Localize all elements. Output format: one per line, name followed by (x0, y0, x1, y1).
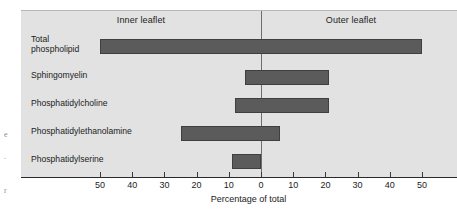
data-bar (181, 126, 281, 141)
x-axis-tick (358, 172, 359, 177)
x-axis-tick (132, 172, 133, 177)
x-axis-tick-label: 40 (120, 180, 144, 190)
x-axis-tick-label: 20 (185, 180, 209, 190)
x-axis-tick (325, 172, 326, 177)
margin-artifact-2: . (4, 152, 6, 161)
x-axis-tick (164, 172, 165, 177)
chart-row: Phosphatidylethanolamine (21, 120, 457, 148)
x-axis-line (21, 177, 457, 178)
category-label-line: Phosphatidylserine (31, 154, 104, 164)
category-label: Phosphatidylethanolamine (31, 126, 132, 136)
x-axis-title: Percentage of total (0, 194, 457, 204)
category-label: Totalphospholipid (31, 34, 79, 54)
x-axis-tick-label: 30 (346, 180, 370, 190)
data-bar (100, 39, 422, 54)
phospholipid-distribution-chart: e . r Inner leaflet Outer leaflet Totalp… (0, 0, 457, 224)
data-bar (232, 154, 261, 169)
category-label-line: Sphingomyelin (31, 70, 87, 80)
chart-row: Phosphatidylserine (21, 148, 457, 176)
chart-row: Totalphospholipid (21, 33, 457, 61)
category-label: Phosphatidylserine (31, 154, 104, 164)
x-axis-tick-label: 30 (152, 180, 176, 190)
data-bar (245, 70, 329, 85)
x-axis-tick-label: 10 (281, 180, 305, 190)
category-label-line: Total (31, 34, 79, 44)
x-axis-tick-label: 50 (410, 180, 434, 190)
x-axis-tick (390, 172, 391, 177)
plot-area: Inner leaflet Outer leaflet Totalphospho… (21, 10, 457, 178)
category-label-line: phospholipid (31, 44, 79, 54)
x-axis-tick (293, 172, 294, 177)
category-label-line: Phosphatidylethanolamine (31, 126, 132, 136)
x-axis-tick-label: 50 (88, 180, 112, 190)
x-axis-tick (100, 172, 101, 177)
x-axis-tick (197, 172, 198, 177)
category-label-line: Phosphatidylcholine (31, 98, 107, 108)
x-axis-tick-label: 0 (249, 180, 273, 190)
x-axis-tick-label: 40 (378, 180, 402, 190)
x-axis-tick-label: 20 (313, 180, 337, 190)
x-axis-tick (422, 172, 423, 177)
x-axis-tick (261, 172, 262, 177)
data-bar (235, 98, 328, 113)
chart-row: Phosphatidylcholine (21, 92, 457, 120)
category-label: Sphingomyelin (31, 70, 87, 80)
margin-artifact-1: e (4, 130, 8, 139)
x-axis-tick-label: 10 (217, 180, 241, 190)
chart-row: Sphingomyelin (21, 64, 457, 92)
inner-leaflet-header: Inner leaflet (21, 15, 261, 25)
outer-leaflet-header: Outer leaflet (261, 15, 441, 25)
x-axis-title-text: Percentage of total (211, 194, 287, 204)
x-axis-tick (229, 172, 230, 177)
category-label: Phosphatidylcholine (31, 98, 107, 108)
